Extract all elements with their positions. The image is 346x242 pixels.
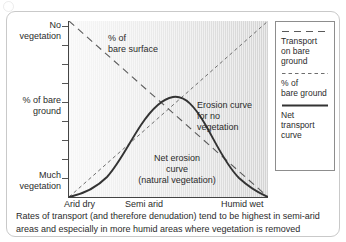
figure-caption: Rates of transport (and therefore denuda… — [16, 210, 334, 235]
x-axis-label-arid-dry: Arid dry — [64, 199, 95, 210]
y-axis-label-top: No vegetation — [7, 20, 61, 41]
x-axis — [68, 197, 268, 198]
legend-swatch-long-dashed — [281, 28, 329, 35]
legend-swatch-solid — [281, 102, 329, 109]
chart-area: No vegetation % of bare ground Much vege… — [7, 12, 341, 209]
legend-label-percent-bare-ground: % of bare ground — [281, 78, 330, 98]
y-axis-tick — [62, 83, 68, 84]
y-axis-tick — [62, 45, 68, 46]
legend-swatch-short-dashed — [281, 70, 329, 77]
legend-box: Transport on bare ground % of bare groun… — [275, 21, 335, 171]
y-axis — [68, 21, 69, 198]
legend-label-net-transport-curve: Net transport curve — [281, 110, 330, 140]
legend-entry-net-transport-curve: Net transport curve — [281, 102, 330, 140]
y-axis-label-bottom: Much vegetation — [7, 170, 61, 191]
y-axis-tick — [62, 178, 68, 179]
legend-label-transport-on-bare-ground: Transport on bare ground — [281, 36, 330, 66]
x-axis-label-semi-arid: Semi arid — [125, 199, 163, 210]
legend-entry-percent-bare-ground: % of bare ground — [281, 70, 330, 98]
y-axis-tick — [62, 102, 68, 103]
legend-entry-transport-on-bare-ground: Transport on bare ground — [281, 28, 330, 66]
annotation-net-erosion-curve: Net erosion curve (natural vegetation) — [124, 153, 230, 186]
annotation-erosion-curve-no-vegetation: Erosion curve for no vegetation — [197, 100, 252, 133]
figure-container: No vegetation % of bare ground Much vege… — [6, 11, 340, 237]
y-axis-tick — [62, 159, 68, 160]
y-axis-label-middle: % of bare ground — [7, 95, 61, 116]
y-axis-tick — [62, 26, 68, 27]
x-axis-label-humid-wet: Humid wet — [221, 199, 264, 210]
y-axis-tick — [62, 64, 68, 65]
annotation-bare-surface: % of bare surface — [108, 33, 158, 55]
y-axis-tick — [62, 121, 68, 122]
y-axis-tick — [62, 140, 68, 141]
